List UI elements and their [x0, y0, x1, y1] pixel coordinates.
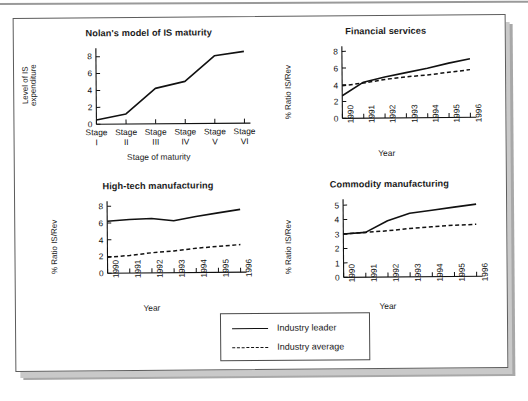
x-tick-label: 1993	[178, 259, 187, 277]
y-tick-label: 4	[80, 86, 92, 96]
x-tick-label: 1995	[222, 259, 231, 277]
x-tick-label-bottom: III	[152, 136, 159, 146]
x-tick-label-bottom: IV	[181, 136, 189, 146]
legend-item-label: Industry average	[277, 341, 344, 352]
plot-area: 02468StageIStageIIStageIIIStageIVStageVS…	[96, 47, 259, 134]
y-tick-label: 6	[80, 69, 92, 79]
y-tick-label: 2	[91, 251, 103, 261]
x-tick-label-bottom: VI	[241, 136, 249, 146]
x-tick-label: 1991	[369, 264, 378, 282]
chart-title: High-tech manufacturing	[43, 180, 273, 192]
x-tick-label: StageIV	[174, 128, 196, 147]
x-tick-label: StageVI	[234, 127, 256, 146]
x-axis-title: Stage of maturity	[59, 151, 259, 163]
y-axis-title-line2: expenditure	[29, 64, 38, 106]
series-line	[107, 245, 240, 258]
x-tick-label: 1992	[391, 264, 400, 282]
chart-title: Nolan's model of IS maturity	[28, 27, 270, 39]
x-tick-label-top: Stage	[174, 127, 196, 137]
x-tick-label: 1996	[480, 263, 489, 281]
y-tick-label: 2	[80, 102, 92, 112]
series-line	[342, 59, 470, 96]
y-tick-label: 0	[326, 113, 338, 123]
x-tick-label-bottom: II	[124, 137, 129, 147]
y-axis-title: % Ratio IS/Rev	[49, 190, 59, 274]
plot-svg	[96, 47, 259, 134]
y-tick-label: 6	[91, 218, 103, 228]
x-tick-label-top: Stage	[234, 126, 256, 136]
plot-area: 0123451990199119921993199419951996	[343, 198, 491, 287]
series-line	[343, 204, 476, 234]
x-tick-label: 1996	[474, 104, 483, 122]
page-top-rule	[0, 1, 528, 5]
x-tick-label: 1990	[346, 105, 355, 123]
x-tick-label-top: Stage	[204, 126, 226, 136]
x-axis-title: Year	[308, 300, 468, 311]
y-tick-label: 5	[327, 200, 339, 210]
y-tick-label: 3	[327, 229, 339, 239]
x-tick-label: 1993	[414, 264, 423, 282]
legend-item-industry-average: Industry average	[232, 341, 344, 352]
y-tick-label: 2	[326, 97, 338, 107]
x-tick-label-bottom: I	[95, 137, 97, 147]
x-tick-label: 1995	[458, 263, 467, 281]
y-tick-label: 8	[80, 52, 92, 62]
y-tick-label: 1	[328, 258, 340, 268]
y-tick-label: 0	[92, 268, 104, 278]
x-tick-label: 1990	[347, 264, 356, 282]
x-tick-label: 1992	[389, 105, 398, 123]
chart-title: Commodity manufacturing	[277, 178, 502, 190]
x-tick-label-bottom: V	[212, 136, 218, 146]
y-tick-label: 2	[327, 243, 339, 253]
y-tick-label: 4	[91, 235, 103, 245]
x-tick-label: 1994	[200, 259, 209, 277]
x-tick-label-top: Stage	[115, 127, 137, 137]
figure-card: Nolan's model of IS maturity Level of IS…	[13, 14, 509, 372]
series-line	[107, 209, 240, 221]
x-tick-label: 1990	[111, 260, 120, 278]
series-line	[96, 51, 245, 120]
x-tick-label: 1991	[367, 105, 376, 123]
x-tick-label: StageIII	[145, 128, 167, 147]
x-tick-label: 1993	[410, 105, 419, 123]
y-tick-label: 4	[327, 215, 339, 225]
x-tick-label: 1996	[244, 259, 253, 277]
plot-area: 024681990199119921993199419951996	[107, 200, 255, 283]
y-tick-label: 6	[326, 63, 338, 73]
x-tick-label: 1992	[155, 260, 164, 278]
x-tick-label: StageV	[204, 127, 226, 146]
chart-panel-high-tech-manufacturing: High-tech manufacturing % Ratio IS/Rev 0…	[43, 180, 274, 332]
y-tick-label: 8	[326, 46, 338, 56]
chart-title: Financial services	[276, 25, 496, 37]
x-tick-label: StageII	[115, 128, 137, 147]
y-tick-label: 4	[326, 80, 338, 90]
y-axis-title: % Ratio IS/Rev	[283, 35, 293, 119]
scanned-figure-page: Nolan's model of IS maturity Level of IS…	[0, 0, 528, 401]
x-axis-title: Year	[307, 147, 467, 158]
legend: Industry leader Industry average	[220, 312, 370, 361]
legend-item-industry-leader: Industry leader	[232, 322, 337, 333]
x-tick-label: 1994	[431, 104, 440, 122]
x-tick-label-top: Stage	[86, 127, 108, 137]
legend-solid-line-swatch	[232, 327, 268, 328]
x-tick-label: StageI	[86, 128, 108, 147]
legend-item-label: Industry leader	[277, 322, 337, 332]
x-tick-label-top: Stage	[145, 127, 167, 137]
y-axis-title: % Ratio IS/Rev	[283, 190, 293, 274]
chart-panel-commodity-manufacturing: Commodity manufacturing % Ratio IS/Rev 0…	[277, 178, 503, 330]
x-tick-label: 1994	[436, 263, 445, 281]
x-tick-label: 1995	[453, 104, 462, 122]
y-tick-label: 8	[91, 201, 103, 211]
x-axis-title: Year	[72, 302, 232, 313]
x-tick-label: 1991	[133, 260, 142, 278]
y-axis-title: Level of ISexpenditure	[21, 37, 39, 133]
y-tick-label: 0	[328, 272, 340, 282]
legend-dashed-line-swatch	[232, 346, 268, 347]
series-line	[343, 224, 476, 234]
chart-panel-financial-services: Financial services % Ratio IS/Rev 024681…	[276, 25, 497, 177]
plot-area: 024681990199119921993199419951996	[342, 45, 485, 128]
chart-panel-nolan-model: Nolan's model of IS maturity Level of IS…	[28, 27, 271, 179]
